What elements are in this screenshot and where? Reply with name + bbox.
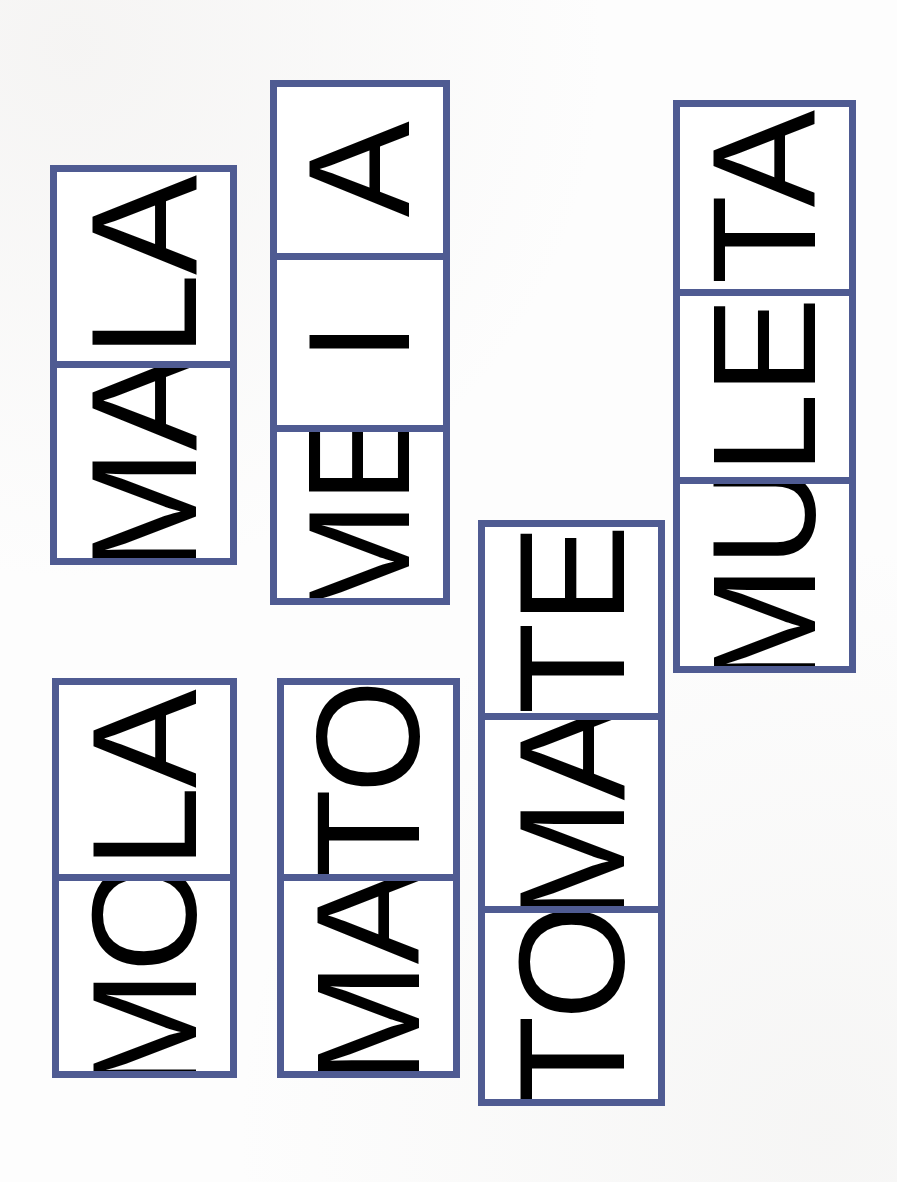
syllable-text: MA [497,720,647,913]
syllable-cell[interactable]: MA [485,720,658,913]
syllable-text: LE [692,299,838,475]
syllable-text: TO [497,913,647,1099]
syllable-text: TE [497,527,647,714]
syllable-cell[interactable]: LE [680,296,849,485]
syllable-text: I [288,323,432,362]
syllable-text: LA [69,177,219,357]
syllable-text: LA [71,691,219,869]
syllable-cell[interactable]: LA [59,685,230,882]
syllable-text: MA [69,369,219,559]
syllable-cell[interactable]: TO [485,913,658,1099]
syllable-cell[interactable]: ME [277,432,443,598]
word-card-muleta[interactable]: MULETA [673,100,856,673]
syllable-cell[interactable]: A [277,87,443,260]
word-card-mola[interactable]: MOLA [52,678,237,1078]
syllable-cell[interactable]: MA [57,369,230,559]
card-sheet: MALAMEIAMULETAMOLAMATOTOMATE [0,0,897,1182]
syllable-text: A [288,123,432,218]
syllable-text: MA [296,882,442,1072]
syllable-cell[interactable]: MO [59,882,230,1072]
syllable-cell[interactable]: TA [680,107,849,296]
syllable-cell[interactable]: I [277,260,443,433]
syllable-text: MO [71,882,219,1072]
syllable-cell[interactable]: MA [284,882,453,1072]
syllable-text: ME [288,432,432,598]
syllable-cell[interactable]: LA [57,172,230,369]
word-card-meia[interactable]: MEIA [270,80,450,605]
word-card-tomate[interactable]: TOMATE [478,520,665,1106]
syllable-cell[interactable]: MU [680,484,849,666]
syllable-text: MU [692,484,838,666]
syllable-cell[interactable]: TE [485,527,658,720]
word-card-mala[interactable]: MALA [50,165,237,565]
syllable-text: TA [692,111,838,284]
syllable-cell[interactable]: TO [284,685,453,882]
syllable-text: TO [296,685,442,878]
word-card-mato[interactable]: MATO [277,678,460,1078]
